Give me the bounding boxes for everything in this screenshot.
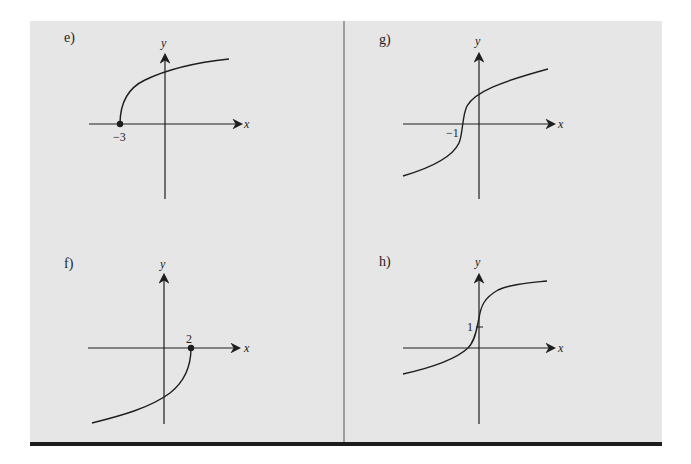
panel-label: g): [379, 32, 391, 48]
panel-label: f): [64, 256, 74, 272]
x-axis-label: x: [557, 341, 564, 355]
endpoint-dot: [117, 121, 123, 127]
y-axis-label: y: [474, 34, 481, 48]
point-label: 1: [467, 320, 473, 334]
x-axis-label: x: [243, 117, 250, 131]
bottom-rule: [30, 442, 662, 446]
y-axis-label: y: [159, 257, 166, 271]
figure-background: [30, 21, 662, 442]
x-axis-label: x: [557, 117, 564, 131]
y-axis-label: y: [160, 36, 167, 50]
point-label: −3: [113, 130, 126, 144]
x-axis-label: x: [243, 341, 250, 355]
function-graph-figure: e) x y −3 g) x y −1 f) x y 2 h) x y 1: [0, 0, 691, 464]
panel-label: e): [64, 30, 75, 46]
point-label: −1: [446, 126, 459, 140]
panel-label: h): [379, 254, 391, 270]
point-label: 2: [186, 332, 192, 346]
y-axis-label: y: [474, 255, 481, 269]
